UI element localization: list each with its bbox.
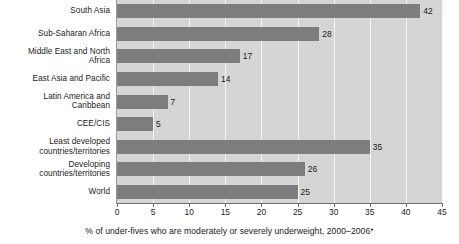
bar xyxy=(117,4,420,18)
category-label-line: countries/territories xyxy=(39,147,110,157)
category-label-line: Latin America and xyxy=(44,92,110,102)
bar-value-label: 35 xyxy=(373,140,382,154)
x-axis-line xyxy=(117,203,443,204)
bar-value-label: 14 xyxy=(221,72,230,86)
category-label: World xyxy=(0,180,113,203)
plot-area: 4228171475352625 xyxy=(117,0,442,203)
category-label-line: Sub-Saharan Africa xyxy=(38,29,110,39)
category-label-line: Least developed xyxy=(49,137,110,147)
x-tick-label: 45 xyxy=(437,207,446,217)
category-label-line: CEE/CIS xyxy=(77,119,110,129)
bar xyxy=(117,49,240,63)
bar xyxy=(117,72,218,86)
bar xyxy=(117,27,319,41)
category-label: Sub-Saharan Africa xyxy=(0,23,113,46)
x-tick-label: 5 xyxy=(151,207,156,217)
bar-value-label: 17 xyxy=(243,49,252,63)
x-tick-label: 15 xyxy=(221,207,230,217)
bar xyxy=(117,117,153,131)
x-tick-label: 20 xyxy=(257,207,266,217)
bar-value-label: 7 xyxy=(171,95,176,109)
category-label: Latin America andCaribbean xyxy=(0,90,113,113)
bar-chart: South AsiaSub-Saharan AfricaMiddle East … xyxy=(0,0,459,244)
gridline xyxy=(406,0,407,203)
bar xyxy=(117,95,168,109)
x-tick-label: 35 xyxy=(365,207,374,217)
category-label: South Asia xyxy=(0,0,113,23)
bar-value-label: 25 xyxy=(301,185,310,199)
category-label: CEE/CIS xyxy=(0,113,113,136)
y-axis-line xyxy=(116,0,117,204)
category-label-line: Middle East and North xyxy=(28,47,110,57)
bar xyxy=(117,185,298,199)
category-label: East Asia and Pacific xyxy=(0,68,113,91)
bar xyxy=(117,140,370,154)
category-label-line: East Asia and Pacific xyxy=(32,74,110,84)
x-tick-label: 10 xyxy=(185,207,194,217)
category-label-line: Caribbean xyxy=(72,101,110,111)
category-label-line: countries/territories xyxy=(39,169,110,179)
gridline xyxy=(334,0,335,203)
category-label-line: South Asia xyxy=(70,6,110,16)
bar xyxy=(117,162,305,176)
category-label-line: World xyxy=(89,187,110,197)
category-label-line: Africa xyxy=(89,56,110,66)
x-tick-label: 30 xyxy=(329,207,338,217)
x-tick-label: 25 xyxy=(293,207,302,217)
x-tick-label: 40 xyxy=(401,207,410,217)
bar-value-label: 42 xyxy=(423,4,432,18)
x-tick-label: 0 xyxy=(115,207,120,217)
category-axis-labels: South AsiaSub-Saharan AfricaMiddle East … xyxy=(0,0,113,203)
chart-caption: % of under-fives who are moderately or s… xyxy=(0,226,459,237)
category-label: Least developedcountries/territories xyxy=(0,135,113,158)
category-label-line: Developing xyxy=(69,160,110,170)
bar-value-label: 5 xyxy=(156,117,161,131)
bar-value-label: 26 xyxy=(308,162,317,176)
category-label: Developingcountries/territories xyxy=(0,158,113,181)
bar-value-label: 28 xyxy=(322,27,331,41)
gridline xyxy=(370,0,371,203)
gridline xyxy=(442,0,443,203)
category-label: Middle East and NorthAfrica xyxy=(0,45,113,68)
